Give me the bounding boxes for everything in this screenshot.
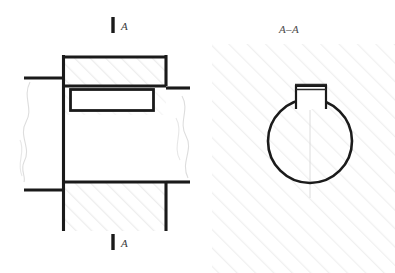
technical-drawing-canvas: A–A <box>0 0 395 273</box>
keyway-rectangle <box>71 90 154 111</box>
left-view-group <box>20 55 190 231</box>
section-label-bottom: A <box>120 237 128 249</box>
right-view-hatching <box>212 44 395 273</box>
upper-band-hatching <box>62 56 166 85</box>
section-view-title: A–A <box>278 23 299 35</box>
lower-band-hatching <box>62 181 166 231</box>
break-line-left <box>23 82 30 182</box>
break-line-left-secondary <box>20 140 22 176</box>
section-label-top: A <box>120 20 128 32</box>
right-view-group: A–A <box>212 23 395 273</box>
break-line-right <box>182 96 189 178</box>
drawing-svg: A–A <box>0 0 395 273</box>
break-line-right-secondary <box>176 118 180 160</box>
